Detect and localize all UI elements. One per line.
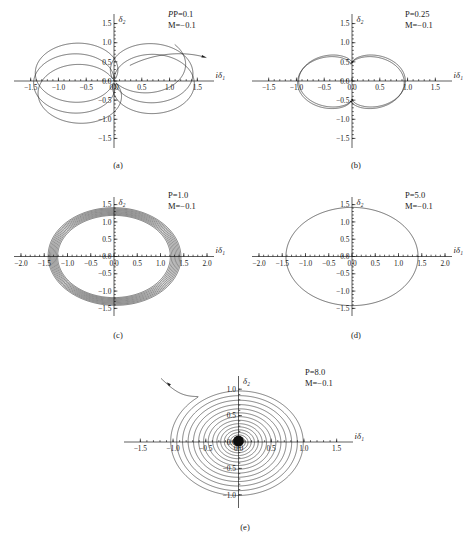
svg-text:0.5: 0.5 — [267, 444, 277, 453]
svg-text:0.5: 0.5 — [137, 83, 147, 92]
svg-text:−1.0: −1.0 — [52, 83, 66, 92]
panel-e-plot: −1.5−1.0−0.50.00.51.01.51.00.50.0−0.5−1.… — [108, 362, 383, 532]
panel-b-caption: (b) — [326, 160, 386, 170]
panel-b-params: P=0.25 M=−0.1 — [405, 9, 433, 30]
svg-text:−1.5: −1.5 — [336, 134, 350, 143]
figure-phase-portraits: −1.5−1.0−0.50.00.51.01.51.51.00.50.0−0.5… — [0, 0, 476, 551]
panel-e-caption: (e) — [215, 522, 275, 532]
svg-text:1.0: 1.0 — [299, 444, 309, 453]
svg-text:1.5: 1.5 — [102, 19, 112, 28]
svg-text:1.0: 1.0 — [102, 38, 112, 47]
svg-text:1.0: 1.0 — [227, 385, 237, 394]
svg-text:1.5: 1.5 — [332, 444, 342, 453]
panel-a-plot: −1.5−1.0−0.50.00.51.01.51.51.00.50.0−0.5… — [0, 0, 238, 170]
panel-a-M: M=−0.1 — [168, 20, 196, 30]
panel-e-P: P=8.0 — [305, 367, 325, 377]
svg-text:1.0: 1.0 — [340, 218, 350, 227]
panel-b-M: M=−0.1 — [405, 20, 433, 30]
svg-text:0.5: 0.5 — [340, 235, 350, 244]
spiral-tail — [161, 379, 198, 397]
svg-text:1.0: 1.0 — [156, 259, 166, 268]
panel-d-caption: (d) — [326, 330, 386, 340]
panel-d: −2.0−1.5−1.0−0.50.00.51.01.52.01.51.00.5… — [238, 183, 476, 338]
panel-a-caption: (a) — [88, 160, 148, 170]
panel-c-plot: −2.0−1.5−1.0−0.50.00.51.01.52.01.51.00.5… — [0, 183, 238, 338]
svg-text:1.0: 1.0 — [340, 38, 350, 47]
panel-d-M: M=−0.1 — [405, 201, 433, 211]
y-axis-label: δ₂ — [357, 197, 364, 207]
y-axis-label: δ₂ — [119, 14, 126, 24]
svg-text:−1.5: −1.5 — [98, 134, 112, 143]
svg-text:1.0: 1.0 — [102, 218, 112, 227]
x-axis-label: iδ₁ — [216, 70, 225, 80]
svg-text:0.5: 0.5 — [227, 411, 237, 420]
panel-c-caption: (c) — [88, 330, 148, 340]
svg-text:0.0: 0.0 — [102, 252, 112, 261]
svg-text:1.5: 1.5 — [431, 83, 441, 92]
svg-text:−1.0: −1.0 — [299, 259, 313, 268]
svg-text:−1.5: −1.5 — [262, 83, 276, 92]
svg-text:−1.5: −1.5 — [134, 444, 148, 453]
x-axis-label: iδ₁ — [216, 245, 225, 255]
spiral-core — [233, 436, 244, 447]
svg-text:1.0: 1.0 — [394, 259, 404, 268]
svg-text:−0.5: −0.5 — [322, 259, 336, 268]
panel-c: −2.0−1.5−1.0−0.50.00.51.01.52.01.51.00.5… — [0, 183, 238, 338]
svg-text:0.5: 0.5 — [133, 259, 143, 268]
panel-d-params: P=5.0 M=−0.1 — [405, 190, 433, 211]
svg-text:−2.0: −2.0 — [252, 259, 266, 268]
x-axis-label: iδ₁ — [355, 431, 364, 441]
panel-a-params: PP=0.1 M=−0.1 — [168, 9, 196, 30]
panel-e-M: M=−0.1 — [305, 378, 333, 388]
svg-text:0.0: 0.0 — [102, 77, 112, 86]
svg-text:0.0: 0.0 — [340, 252, 350, 261]
svg-text:−0.5: −0.5 — [80, 83, 94, 92]
svg-text:−0.5: −0.5 — [84, 259, 98, 268]
panel-c-M: M=−0.1 — [168, 201, 196, 211]
svg-text:0.5: 0.5 — [102, 235, 112, 244]
panel-a: −1.5−1.0−0.50.00.51.01.51.51.00.50.0−0.5… — [0, 0, 238, 170]
x-axis-label: iδ₁ — [454, 245, 463, 255]
svg-text:−0.5: −0.5 — [318, 83, 332, 92]
y-axis-label: δ₂ — [119, 197, 126, 207]
svg-text:0.0: 0.0 — [340, 77, 350, 86]
panel-e-params: P=8.0 M=−0.1 — [305, 367, 333, 388]
panel-c-params: P=1.0 M=−0.1 — [168, 190, 196, 211]
svg-text:−1.5: −1.5 — [24, 83, 38, 92]
panel-c-P: P=1.0 — [168, 190, 188, 200]
panel-b-plot: −1.5−1.0−0.50.00.51.01.51.51.00.50.0−0.5… — [238, 0, 476, 170]
svg-text:2.0: 2.0 — [440, 259, 450, 268]
y-axis-label: δ₂ — [357, 14, 364, 24]
panel-e: −1.5−1.0−0.50.00.51.01.51.00.50.0−0.5−1.… — [108, 362, 383, 532]
panel-b-P: P=0.25 — [405, 9, 429, 19]
svg-text:−1.0: −1.0 — [98, 115, 112, 124]
svg-text:1.0: 1.0 — [165, 83, 175, 92]
panel-d-plot: −2.0−1.5−1.0−0.50.00.51.01.52.01.51.00.5… — [238, 183, 476, 338]
x-axis-label: iδ₁ — [454, 70, 463, 80]
svg-text:−1.0: −1.0 — [336, 287, 350, 296]
panel-b: −1.5−1.0−0.50.00.51.01.51.51.00.50.0−0.5… — [238, 0, 476, 170]
direction-arrow-icon — [201, 55, 206, 58]
svg-text:−2.0: −2.0 — [14, 259, 28, 268]
svg-text:−0.5: −0.5 — [336, 269, 350, 278]
svg-text:1.5: 1.5 — [340, 19, 350, 28]
svg-text:2.0: 2.0 — [202, 259, 212, 268]
svg-text:0.5: 0.5 — [375, 83, 385, 92]
svg-text:0.5: 0.5 — [371, 259, 381, 268]
svg-text:−1.0: −1.0 — [61, 259, 75, 268]
svg-text:−0.5: −0.5 — [98, 269, 112, 278]
svg-text:−1.0: −1.0 — [98, 287, 112, 296]
panel-d-P: P=5.0 — [405, 190, 425, 200]
y-axis-label: δ₂ — [243, 376, 250, 386]
svg-text:1.5: 1.5 — [417, 259, 427, 268]
svg-text:−1.0: −1.0 — [336, 115, 350, 124]
